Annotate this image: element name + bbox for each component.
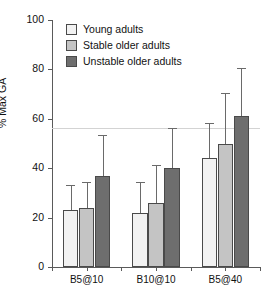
y-axis-tick-label: 60 xyxy=(8,112,44,125)
bar xyxy=(148,203,164,267)
x-axis-boundary-tick xyxy=(121,267,122,271)
bar xyxy=(202,158,218,267)
y-axis-tick-mark xyxy=(48,119,52,120)
legend-item-label: Unstable older adults xyxy=(83,55,182,68)
x-axis-tick-mark xyxy=(156,267,157,271)
x-axis-boundary-tick xyxy=(260,267,261,271)
y-axis-tick-label: 80 xyxy=(8,62,44,75)
legend-item: Young adults xyxy=(66,22,182,37)
legend-item: Unstable older adults xyxy=(66,54,182,69)
error-bar-cap xyxy=(98,135,107,136)
y-axis-tick-mark xyxy=(48,20,52,21)
error-bar-line xyxy=(209,124,210,159)
error-bar-line xyxy=(156,166,157,203)
x-axis-tick-mark xyxy=(225,267,226,271)
error-bar-line xyxy=(172,129,173,169)
error-bar-cap xyxy=(152,165,161,166)
x-axis-tick-mark xyxy=(87,267,88,271)
legend-swatch xyxy=(66,24,77,35)
legend-swatch xyxy=(66,40,77,51)
y-axis-title: % Max GA xyxy=(0,78,8,128)
error-bar-line xyxy=(87,183,88,208)
x-axis-boundary-tick xyxy=(52,267,53,271)
bar xyxy=(218,144,234,268)
error-bar-cap xyxy=(168,128,177,129)
error-bar-cap xyxy=(136,182,145,183)
x-axis-boundary-tick xyxy=(191,267,192,271)
bar xyxy=(95,176,111,267)
bar-chart: % Max GA 020406080100 B5@10B10@10B5@40 Y… xyxy=(0,0,274,294)
error-bar-cap xyxy=(205,123,214,124)
legend-swatch xyxy=(66,56,77,67)
x-axis-category-label: B5@10 xyxy=(70,273,104,286)
x-axis-category-label: B5@40 xyxy=(209,273,243,286)
error-bar-line xyxy=(103,136,104,176)
bar xyxy=(79,208,95,267)
bar-group xyxy=(202,20,250,267)
legend-item-label: Young adults xyxy=(83,23,143,36)
chart-legend: Young adultsStable older adultsUnstable … xyxy=(66,22,182,70)
error-bar-line xyxy=(225,94,226,143)
y-axis-tick-label: 40 xyxy=(8,161,44,174)
error-bar-line xyxy=(241,69,242,116)
error-bar-cap xyxy=(66,185,75,186)
error-bar-line xyxy=(71,186,72,211)
error-bar-cap xyxy=(237,68,246,69)
y-axis-tick-mark xyxy=(48,69,52,70)
legend-item-label: Stable older adults xyxy=(83,39,170,52)
y-axis-tick-label: 20 xyxy=(8,211,44,224)
bar xyxy=(234,116,250,267)
error-bar-cap xyxy=(82,182,91,183)
error-bar-cap xyxy=(221,93,230,94)
bar xyxy=(132,213,148,267)
x-axis-category-label: B10@10 xyxy=(136,273,175,286)
error-bar-line xyxy=(140,183,141,213)
y-axis-tick-mark xyxy=(48,168,52,169)
legend-item: Stable older adults xyxy=(66,38,182,53)
bar xyxy=(164,168,180,267)
y-axis-tick-label: 100 xyxy=(8,13,44,26)
y-axis-tick-mark xyxy=(48,218,52,219)
y-axis-tick-label: 0 xyxy=(8,260,44,273)
bar xyxy=(63,210,79,267)
